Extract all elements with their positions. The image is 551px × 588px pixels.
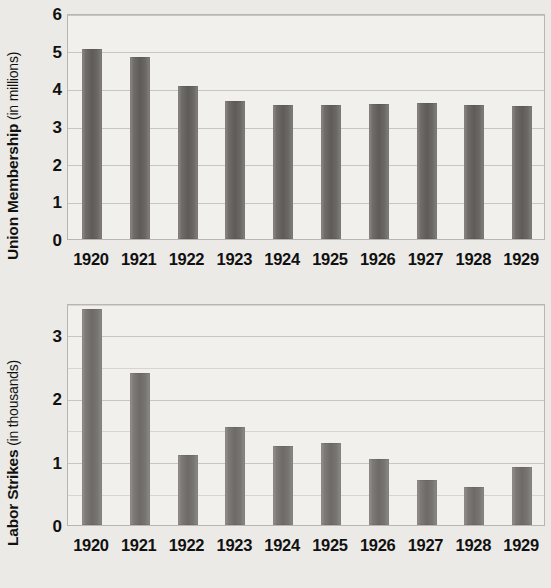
y-axis-tick-labels-union-membership: 0123456 bbox=[24, 14, 62, 240]
chart-panel-union-membership: Union Membership (in millions) 0123456 1… bbox=[0, 0, 551, 278]
x-axis-tick-label: 1923 bbox=[217, 536, 253, 555]
y-axis-title-bold-union-membership: Union Membership bbox=[4, 124, 21, 260]
chart-panel-labor-strikes: Labor Strikes (in thousands) 0123 192019… bbox=[0, 296, 551, 588]
bar bbox=[130, 373, 150, 525]
x-axis-tick-label: 1928 bbox=[456, 250, 492, 269]
x-axis-tick-label: 1929 bbox=[503, 536, 539, 555]
y-axis-title-bold-labor-strikes: Labor Strikes bbox=[4, 450, 21, 546]
bar bbox=[512, 467, 532, 525]
bar bbox=[464, 487, 484, 525]
bar bbox=[178, 86, 198, 239]
y-axis-tick-label: 4 bbox=[28, 81, 62, 98]
x-axis-tick-label: 1922 bbox=[169, 536, 205, 555]
bar bbox=[321, 105, 341, 239]
bar bbox=[417, 480, 437, 525]
gridline-major bbox=[68, 336, 544, 337]
x-axis-tick-label: 1924 bbox=[264, 536, 300, 555]
bar bbox=[273, 446, 293, 525]
y-axis-tick-label: 1 bbox=[28, 454, 62, 471]
y-axis-tick-label: 2 bbox=[28, 391, 62, 408]
x-axis-tick-label: 1923 bbox=[217, 250, 253, 269]
x-axis-tick-label: 1925 bbox=[312, 536, 348, 555]
gridline-major bbox=[68, 52, 544, 53]
x-axis-tick-label: 1922 bbox=[169, 250, 205, 269]
y-axis-tick-label: 2 bbox=[28, 156, 62, 173]
y-axis-tick-labels-labor-strikes: 0123 bbox=[24, 304, 62, 526]
x-axis-tick-label: 1927 bbox=[408, 250, 444, 269]
gridline-minor bbox=[68, 305, 544, 306]
bar bbox=[82, 49, 102, 239]
x-axis-tick-label: 1920 bbox=[73, 250, 109, 269]
plot-area-labor-strikes bbox=[67, 304, 545, 526]
gridline-minor bbox=[68, 368, 544, 369]
y-axis-tick-label: 6 bbox=[28, 6, 62, 23]
y-axis-tick-label: 0 bbox=[28, 232, 62, 249]
y-axis-tick-label: 3 bbox=[28, 327, 62, 344]
bar bbox=[321, 443, 341, 525]
bar bbox=[225, 101, 245, 239]
y-axis-tick-label: 0 bbox=[28, 518, 62, 535]
y-axis-tick-label: 5 bbox=[28, 43, 62, 60]
plot-area-union-membership bbox=[67, 14, 545, 240]
x-axis-tick-label: 1926 bbox=[360, 250, 396, 269]
two-panel-bar-chart-figure: Union Membership (in millions) 0123456 1… bbox=[0, 0, 551, 588]
bar bbox=[464, 105, 484, 239]
x-axis-tick-label: 1921 bbox=[121, 536, 157, 555]
bar bbox=[225, 427, 245, 525]
x-axis-tick-label: 1926 bbox=[360, 536, 396, 555]
gridline-major bbox=[68, 15, 544, 16]
bar bbox=[512, 106, 532, 239]
x-axis-tick-label: 1927 bbox=[408, 536, 444, 555]
bar bbox=[82, 309, 102, 525]
x-axis-tick-label: 1928 bbox=[456, 536, 492, 555]
bar bbox=[369, 459, 389, 525]
x-axis-tick-label: 1924 bbox=[264, 250, 300, 269]
bar bbox=[369, 104, 389, 239]
bar bbox=[417, 103, 437, 239]
x-axis-tick-label: 1920 bbox=[73, 536, 109, 555]
x-axis-tick-label: 1921 bbox=[121, 250, 157, 269]
y-axis-title-units-labor-strikes: (in thousands) bbox=[5, 360, 21, 450]
x-axis-tick-label: 1925 bbox=[312, 250, 348, 269]
y-axis-title-units-union-membership: (in millions) bbox=[5, 52, 21, 124]
x-axis-tick-label: 1929 bbox=[503, 250, 539, 269]
bar bbox=[273, 105, 293, 239]
bar bbox=[178, 455, 198, 525]
bar bbox=[130, 57, 150, 239]
y-axis-tick-label: 1 bbox=[28, 194, 62, 211]
y-axis-tick-label: 3 bbox=[28, 119, 62, 136]
